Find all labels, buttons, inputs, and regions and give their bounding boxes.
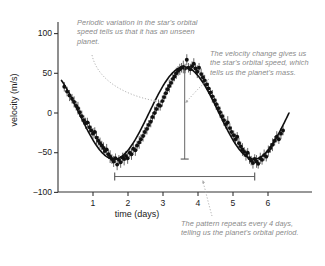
- callout-velocity-change: The velocity change gives us the star's …: [210, 49, 318, 77]
- x-tick-label: 3: [148, 198, 178, 208]
- fit-curve: [62, 67, 290, 159]
- y-tick-label: 50: [14, 68, 52, 78]
- y-tick-label: −50: [14, 147, 52, 157]
- x-tick-label: 5: [218, 198, 248, 208]
- radial-velocity-chart: Periodic variation in the star's orbital…: [0, 0, 325, 266]
- y-tick-label: −100: [14, 187, 52, 197]
- callout-pattern-repeats: The pattern repeats every 4 days, tellin…: [181, 219, 303, 238]
- y-tick-label: 0: [14, 108, 52, 118]
- x-tick-label: 6: [253, 198, 283, 208]
- callout-periodic-variation: Periodic variation in the star's orbital…: [77, 18, 202, 46]
- x-axis-label: time (days): [82, 209, 192, 219]
- y-tick-label: 100: [14, 28, 52, 38]
- measurement-annotation-bars: [115, 67, 255, 181]
- x-tick-label: 4: [183, 198, 213, 208]
- x-tick-label: 1: [78, 198, 108, 208]
- x-tick-label: 2: [113, 198, 143, 208]
